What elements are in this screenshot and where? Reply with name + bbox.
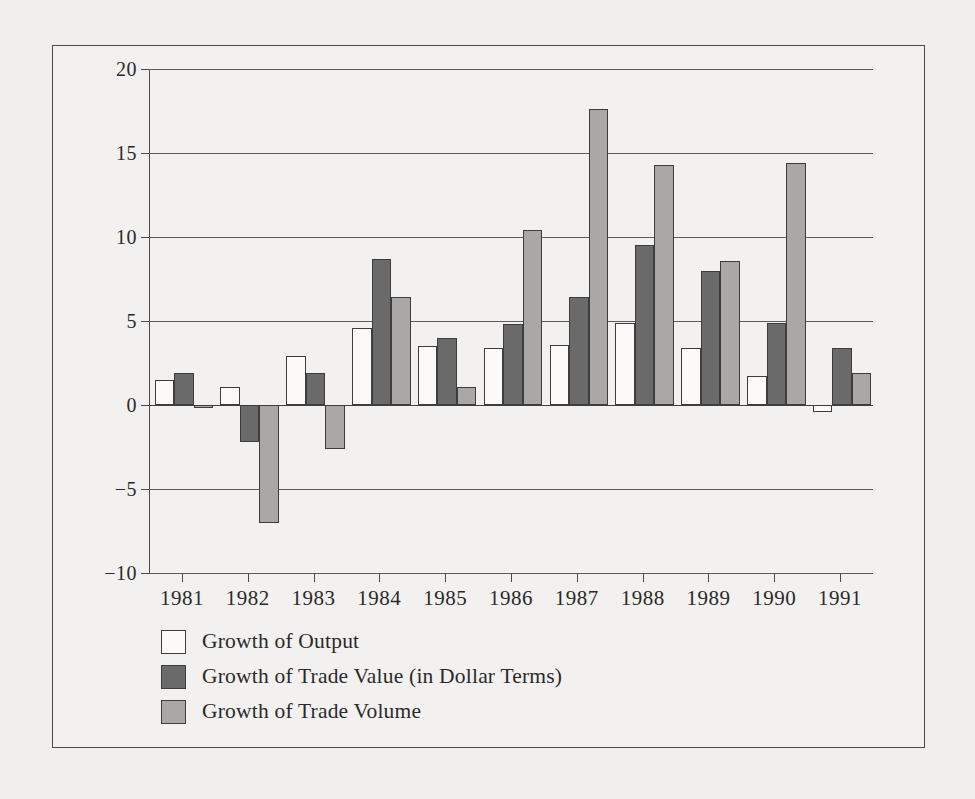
legend-item-3: Growth of Trade Volume [161, 694, 781, 729]
gridline-10 [149, 237, 873, 238]
y-axis-labels: −10−505101520 [53, 69, 137, 573]
legend-label-2: Growth of Trade Value (in Dollar Terms) [202, 664, 562, 689]
legend-label-1: Growth of Output [202, 629, 359, 654]
x-tick-mark-1987 [577, 573, 578, 582]
bar-1981-series-1 [155, 380, 175, 405]
x-tick-label-1986: 1986 [489, 586, 533, 611]
bar-1982-series-2 [240, 405, 260, 442]
bar-1990-series-2 [767, 323, 787, 405]
legend-swatch-output [161, 630, 186, 654]
bar-1990-series-1 [747, 376, 767, 405]
x-tick-label-1984: 1984 [357, 586, 401, 611]
x-tick-label-1985: 1985 [423, 586, 467, 611]
y-tick-label-0: 0 [127, 394, 138, 417]
bar-1985-series-1 [418, 346, 438, 405]
y-tick-mark-20 [141, 69, 149, 70]
bar-1991-series-3 [852, 373, 872, 405]
bar-1987-series-3 [589, 109, 609, 405]
bar-1981-series-3 [194, 405, 214, 408]
bar-1990-series-3 [786, 163, 806, 405]
legend-swatch-trade-value [161, 665, 186, 689]
x-tick-label-1988: 1988 [621, 586, 665, 611]
y-tick-mark-0 [141, 405, 149, 406]
x-tick-mark-1988 [643, 573, 644, 582]
y-tick-mark--5 [141, 489, 149, 490]
x-tick-label-1989: 1989 [686, 586, 730, 611]
y-tick-mark-15 [141, 153, 149, 154]
x-tick-label-1981: 1981 [160, 586, 204, 611]
x-tick-mark-1991 [840, 573, 841, 582]
bar-1991-series-1 [813, 405, 833, 412]
legend-item-2: Growth of Trade Value (in Dollar Terms) [161, 659, 781, 694]
y-tick-label-10: 10 [116, 226, 137, 249]
bar-1982-series-3 [259, 405, 279, 523]
x-tick-mark-1981 [182, 573, 183, 582]
y-tick-mark--10 [141, 573, 149, 574]
x-tick-mark-1985 [445, 573, 446, 582]
gridline-20 [149, 69, 873, 70]
bar-1987-series-1 [550, 345, 570, 405]
bar-1986-series-3 [523, 230, 543, 405]
bar-1983-series-1 [286, 356, 306, 405]
y-tick-label-15: 15 [116, 142, 137, 165]
x-tick-label-1987: 1987 [555, 586, 599, 611]
y-tick-label-20: 20 [116, 58, 137, 81]
x-tick-mark-1983 [314, 573, 315, 582]
bar-1989-series-2 [701, 271, 721, 405]
figure-page: −10−505101520 Growth of OutputGrowth of … [0, 0, 975, 799]
x-tick-mark-1990 [774, 573, 775, 582]
bar-1988-series-2 [635, 245, 655, 405]
chart-frame: −10−505101520 Growth of OutputGrowth of … [52, 45, 925, 748]
bar-1984-series-3 [391, 297, 411, 405]
x-tick-label-1982: 1982 [226, 586, 270, 611]
x-tick-mark-1989 [708, 573, 709, 582]
bar-1989-series-1 [681, 348, 701, 405]
legend-item-1: Growth of Output [161, 624, 781, 659]
bar-1989-series-3 [720, 261, 740, 405]
chart-legend: Growth of OutputGrowth of Trade Value (i… [161, 624, 781, 729]
bar-1985-series-3 [457, 387, 477, 405]
bar-1984-series-1 [352, 328, 372, 405]
plot-area [149, 69, 873, 573]
bar-1986-series-1 [484, 348, 504, 405]
x-tick-mark-1986 [511, 573, 512, 582]
bar-1984-series-2 [372, 259, 392, 405]
bar-1982-series-1 [220, 387, 240, 405]
gridline--5 [149, 489, 873, 490]
y-tick-label-5: 5 [127, 310, 138, 333]
y-tick-label--5: −5 [115, 478, 137, 501]
bar-1988-series-1 [615, 323, 635, 405]
legend-swatch-trade-volume [161, 700, 186, 724]
bar-1988-series-3 [654, 165, 674, 405]
bar-1991-series-2 [832, 348, 852, 405]
y-tick-label--10: −10 [104, 562, 137, 585]
legend-label-3: Growth of Trade Volume [202, 699, 421, 724]
bar-1981-series-2 [174, 373, 194, 405]
y-tick-mark-10 [141, 237, 149, 238]
bar-1987-series-2 [569, 297, 589, 405]
y-tick-mark-5 [141, 321, 149, 322]
x-tick-label-1990: 1990 [752, 586, 796, 611]
bar-1986-series-2 [503, 324, 523, 405]
x-tick-mark-1984 [379, 573, 380, 582]
gridline-15 [149, 153, 873, 154]
plot-wrapper: −10−505101520 Growth of OutputGrowth of … [53, 46, 926, 749]
x-tick-label-1991: 1991 [818, 586, 862, 611]
x-tick-mark-1982 [248, 573, 249, 582]
bar-1983-series-2 [306, 373, 326, 405]
x-tick-label-1983: 1983 [292, 586, 336, 611]
bar-1985-series-2 [437, 338, 457, 405]
bar-1983-series-3 [325, 405, 345, 449]
gridline-5 [149, 321, 873, 322]
